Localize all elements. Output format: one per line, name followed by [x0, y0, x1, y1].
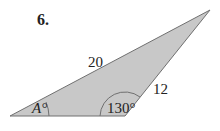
problem-number: 6. — [37, 12, 49, 28]
side-label-20: 20 — [88, 55, 103, 70]
side-label-12: 12 — [153, 82, 168, 97]
angle-label-130: 130° — [107, 101, 136, 116]
angle-label-a: A° — [32, 101, 47, 116]
